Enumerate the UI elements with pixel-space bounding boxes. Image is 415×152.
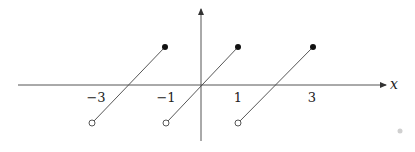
- tick-label-neg3: −3: [86, 90, 105, 105]
- tick-label-3: 3: [308, 90, 316, 105]
- faint-dot: [398, 129, 403, 134]
- tick-label-1: 1: [234, 90, 242, 105]
- sawtooth-graph: x −3 −1 1 3: [0, 0, 415, 152]
- tick-label-neg1: −1: [156, 90, 175, 105]
- closed-endpoint: [310, 44, 316, 50]
- x-axis-label: x: [390, 76, 398, 92]
- open-endpoint: [235, 120, 241, 126]
- open-endpoint: [89, 120, 95, 126]
- open-endpoint: [163, 120, 169, 126]
- closed-endpoint: [235, 44, 241, 50]
- closed-endpoint: [162, 44, 168, 50]
